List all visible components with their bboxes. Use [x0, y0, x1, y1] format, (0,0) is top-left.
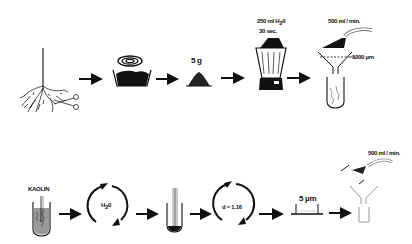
water-label: H20	[101, 201, 111, 212]
blender-icon	[256, 38, 286, 90]
sieve-funnel-icon	[318, 52, 356, 74]
pellet-tube-icon	[167, 188, 182, 232]
sieve-5um-icon	[291, 204, 323, 214]
flow-rate-label: 500 ml / min.	[328, 17, 360, 26]
kaolin-label: KAOLIN	[28, 185, 49, 194]
weight-label-text: 5 g	[191, 56, 202, 65]
diagram-canvas	[0, 0, 412, 244]
heating-coil-icon	[118, 56, 142, 66]
mesh-size-label: 1200 µm	[352, 53, 374, 62]
water-hose-icon	[322, 29, 372, 48]
protocol-diagram: 5 g 250 ml H20 30 sec. 500 ml / min. 120…	[0, 0, 412, 244]
collection-tube-icon	[327, 77, 344, 108]
blend-time-label: 30 sec.	[259, 27, 277, 36]
rinse-funnel-icon	[350, 186, 378, 204]
kaolin-tube-icon	[33, 196, 50, 236]
rinse-flow-label: 500 ml / min.	[368, 149, 400, 158]
rinse-hose-icon	[341, 160, 392, 184]
beaker-icon	[359, 207, 369, 222]
pore-size-label: 5 µm	[299, 194, 316, 203]
sample-pile-icon	[186, 72, 212, 86]
drying-tray-icon	[113, 70, 151, 86]
density-label: d = 1.16	[222, 203, 242, 212]
